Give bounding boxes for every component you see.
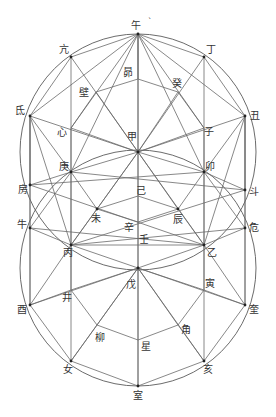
label-bi: 壁: [79, 88, 89, 98]
edge-mao_top-bi: [96, 79, 138, 92]
label-fang: 房: [18, 185, 28, 195]
vertex-wu2: [137, 267, 140, 270]
vertex-kang: [70, 56, 73, 59]
label-dou: 斗: [249, 187, 259, 197]
edge-bing-wu2: [71, 245, 138, 268]
edge-kui-hai: [204, 305, 245, 361]
label-ji: 己: [136, 186, 146, 196]
label-hai: 亥: [203, 365, 213, 375]
diagram-canvas: [0, 0, 276, 417]
label-nv: 女: [63, 365, 73, 375]
label-chou: 丑: [250, 111, 260, 121]
edge-yin-kui: [204, 290, 245, 305]
label-you: 酉: [17, 305, 27, 315]
vertex-niu: [29, 227, 32, 230]
label-ren: 壬: [139, 235, 149, 245]
edge-gui-zi: [178, 92, 204, 128]
label-shi: 室: [133, 391, 143, 401]
label-wu: 午: [131, 21, 141, 31]
label-wu2: 戊: [126, 280, 136, 290]
label-jia: 甲: [127, 132, 137, 142]
label-xing: 星: [141, 342, 151, 352]
label-yin: 寅: [205, 279, 215, 289]
vertex-kui: [244, 304, 247, 307]
label-yi: 乙: [207, 248, 217, 258]
edge-wu-ding: [138, 34, 204, 57]
edge-yin-jiao: [178, 290, 204, 325]
edge-jia-chen: [138, 152, 178, 209]
label-ding: 丁: [206, 45, 216, 55]
edge-wu-geng: [71, 34, 138, 172]
label-zi: 子: [204, 127, 214, 137]
edge-jiao-xing: [138, 325, 178, 340]
edge-wei-ji: [97, 196, 138, 209]
edge-dou-geng: [71, 172, 245, 190]
edge-wei2-yi: [204, 228, 245, 245]
edge-mao-chen: [178, 172, 204, 209]
vertex-dots: [29, 33, 247, 388]
label-mao: 卯: [205, 162, 215, 172]
label-di: 氐: [15, 106, 25, 116]
label-gui: 癸: [172, 79, 182, 89]
label-geng: 庚: [59, 162, 69, 172]
vertex-bing: [70, 244, 73, 247]
vertex-chen: [177, 208, 180, 211]
edge-zi-jia: [138, 128, 204, 152]
edge-yi-wu2: [138, 245, 204, 268]
vertex-wei: [96, 208, 99, 211]
edge-hai-shi: [138, 361, 204, 386]
vertex-jia: [137, 151, 140, 154]
label-wei2: 危: [249, 223, 259, 233]
label-niu: 牛: [17, 220, 27, 230]
annotation-mark: `: [148, 18, 152, 28]
label-wei: 未: [91, 214, 101, 224]
edge-nv-shi: [71, 361, 138, 386]
label-mao_top: 昴: [123, 68, 133, 78]
label-kang: 亢: [59, 45, 69, 55]
vertex-chou: [244, 115, 247, 118]
label-kui: 奎: [249, 305, 259, 315]
label-xin: 心: [57, 128, 67, 138]
edge-fang-geng: [30, 172, 71, 185]
vertex-geng: [70, 171, 73, 174]
label-jing: 井: [62, 293, 72, 303]
edge-liu-nv: [71, 325, 97, 361]
vertex-you: [29, 304, 32, 307]
vertex-nv: [70, 360, 73, 363]
edge-kang-di: [30, 57, 71, 116]
vertex-ding: [203, 56, 206, 59]
vertex-shi: [137, 385, 140, 388]
vertex-dou: [244, 189, 247, 192]
label-xin2: 辛: [124, 223, 134, 233]
edge-jing-liu: [71, 290, 97, 325]
edge-jia-wei: [97, 152, 138, 209]
vertex-wei2: [244, 227, 247, 230]
label-jiao: 角: [181, 325, 191, 335]
edge-chen-xin2: [138, 209, 178, 222]
vertex-hai: [203, 360, 206, 363]
label-liu: 柳: [95, 333, 105, 343]
vertex-yi: [203, 244, 206, 247]
edge-bi-jia: [96, 92, 138, 152]
edge-ding-chou: [204, 57, 245, 116]
label-bing: 丙: [63, 248, 73, 258]
edge-chen-ji: [138, 196, 178, 209]
vertex-di: [29, 115, 32, 118]
construction-lines: [30, 34, 245, 386]
edge-gui-jia: [138, 92, 178, 152]
edge-wu-kang: [71, 34, 138, 57]
edge-you-nv: [30, 305, 71, 361]
vertical-lines: [30, 34, 245, 386]
vertex-wu: [137, 33, 140, 36]
vertex-fang: [29, 184, 32, 187]
label-chen: 辰: [173, 215, 183, 225]
